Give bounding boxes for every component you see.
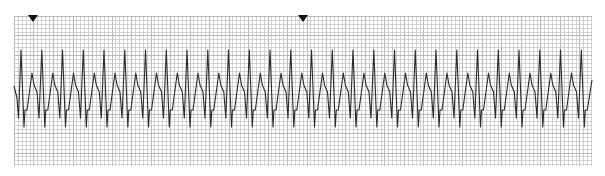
- event-markers: [28, 15, 308, 22]
- ecg-grid: [14, 16, 592, 166]
- ecg-rhythm-strip: [0, 0, 605, 176]
- marker-triangle-icon: [28, 15, 38, 22]
